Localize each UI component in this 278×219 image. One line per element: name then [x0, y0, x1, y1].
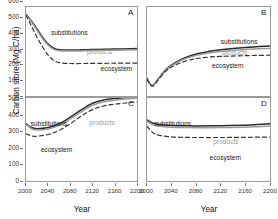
y-tick-mark: [20, 64, 23, 65]
y-tick-mark: [20, 17, 23, 18]
x-tick-mark: [245, 183, 246, 186]
x-tick-label: 2120: [80, 187, 104, 194]
panel-b-plot: [147, 7, 270, 96]
y-axis-ticks-top: 6005004003002001000: [0, 0, 23, 97]
curve-substitutions-panel-d: [147, 120, 270, 126]
y-tick-label: 0: [15, 178, 19, 184]
x-tick-label: 2040: [35, 187, 59, 194]
panel-d: substitutionsproductsecosystem: [146, 97, 271, 182]
y-tick-mark: [20, 148, 23, 149]
panel-label-a: A: [128, 8, 133, 17]
curve-substitutions-panel-b: [147, 46, 270, 86]
x-tick-mark: [196, 183, 197, 186]
x-tick-mark: [220, 183, 221, 186]
panel-b: substitutionsproductsecosystem: [146, 6, 271, 97]
x-tick-mark: [70, 183, 71, 186]
figure-carbon-store-panels: Carbon store (Mg C/ha) 60050040030020010…: [0, 0, 278, 219]
panel-label-c: C: [128, 99, 134, 108]
curve-ecosystem-panel-c: [26, 102, 137, 136]
panel-c-plot: [26, 98, 137, 181]
x-tick-label: 2000: [134, 187, 158, 194]
x-tick-mark: [171, 183, 172, 186]
x-tick-label: 2160: [103, 187, 127, 194]
x-tick-label: 2160: [233, 187, 257, 194]
panel-a-plot: [26, 7, 137, 96]
curve-substitutions-panel-a: [26, 14, 137, 50]
curve-products-panel-b: [147, 48, 270, 86]
x-tick-mark: [115, 183, 116, 186]
x-tick-label: 2120: [208, 187, 232, 194]
panel-d-plot: [147, 98, 270, 181]
y-tick-mark: [20, 1, 23, 2]
x-tick-mark: [92, 183, 93, 186]
y-tick-mark: [20, 131, 23, 132]
y-tick-mark: [20, 115, 23, 116]
y-tick-label: 100: [8, 77, 19, 83]
panel-c: substitutionsproductsecosystem: [25, 97, 138, 182]
x-tick-label: 2080: [184, 187, 208, 194]
x-axis-ticks-right: 200020402080212021602200: [146, 183, 271, 195]
x-axis-ticks-left: 200020402080212021602200: [25, 183, 138, 195]
y-tick-mark: [20, 49, 23, 50]
y-tick-label: 300: [8, 46, 19, 52]
x-tick-mark: [47, 183, 48, 186]
curve-ecosystem-panel-b: [147, 55, 270, 86]
y-tick-mark: [20, 181, 23, 182]
y-tick-mark: [20, 98, 23, 99]
curve-products-panel-a: [26, 15, 137, 51]
y-tick-label: 500: [8, 95, 19, 101]
y-tick-label: 100: [8, 161, 19, 167]
panel-label-b: B: [261, 8, 266, 17]
y-axis-ticks-bottom: 5004003002001000: [0, 97, 23, 182]
x-axis-label-left: Year: [24, 205, 140, 214]
y-tick-label: 200: [8, 145, 19, 151]
panel-label-d: D: [261, 99, 267, 108]
y-tick-label: 500: [8, 14, 19, 20]
y-tick-label: 300: [8, 128, 19, 134]
y-tick-mark: [20, 80, 23, 81]
x-tick-label: 2200: [258, 187, 278, 194]
x-tick-mark: [25, 183, 26, 186]
x-tick-mark: [146, 183, 147, 186]
x-tick-label: 2000: [13, 187, 37, 194]
y-tick-mark: [20, 33, 23, 34]
x-tick-mark: [137, 183, 138, 186]
x-tick-label: 2040: [159, 187, 183, 194]
x-tick-mark: [270, 183, 271, 186]
curve-substitutions-panel-c: [26, 98, 137, 129]
x-tick-label: 2080: [58, 187, 82, 194]
y-tick-label: 200: [8, 61, 19, 67]
x-axis-label-right: Year: [145, 205, 273, 214]
panel-a: substitutionsproductsecosystem: [25, 6, 138, 97]
y-tick-label: 400: [8, 112, 19, 118]
y-tick-label: 600: [8, 0, 19, 4]
y-tick-mark: [20, 164, 23, 165]
y-tick-label: 400: [8, 30, 19, 36]
curve-products-panel-c: [26, 98, 137, 130]
